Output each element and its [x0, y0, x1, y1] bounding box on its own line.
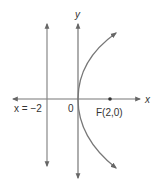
y-axis-label: y — [74, 9, 81, 20]
x-axis-label: x — [144, 94, 151, 105]
origin-label: 0 — [68, 103, 74, 114]
focus-point — [108, 97, 112, 101]
focus-label: F(2,0) — [96, 107, 123, 118]
parabola-diagram: y x 0 x = −2 F(2,0) — [0, 0, 162, 190]
directrix-label: x = −2 — [14, 103, 42, 114]
